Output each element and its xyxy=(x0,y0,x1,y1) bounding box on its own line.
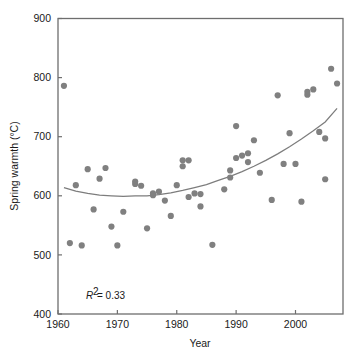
data-point xyxy=(73,182,79,188)
data-point xyxy=(186,157,192,163)
data-point xyxy=(120,209,126,215)
x-tick-label: 1960 xyxy=(46,318,70,330)
data-point xyxy=(233,123,239,129)
data-point xyxy=(281,161,287,167)
data-point xyxy=(180,157,186,163)
data-point xyxy=(322,135,328,141)
data-point xyxy=(91,206,97,212)
x-axis-title: Year xyxy=(189,337,211,349)
data-point xyxy=(310,86,316,92)
data-point xyxy=(180,163,186,169)
data-point xyxy=(221,186,227,192)
data-point xyxy=(328,66,334,72)
data-point xyxy=(114,242,120,248)
data-point xyxy=(96,176,102,182)
data-point xyxy=(209,242,215,248)
y-tick-label: 900 xyxy=(33,12,51,24)
data-point xyxy=(286,130,292,136)
y-axis-tick-labels: 400500600700800900 xyxy=(33,12,51,320)
x-tick-label: 2000 xyxy=(284,318,308,330)
data-point xyxy=(197,203,203,209)
scatter-plot: 400500600700800900 19601970198019902000 … xyxy=(0,0,355,358)
trend-curve xyxy=(64,108,337,196)
data-point xyxy=(67,240,73,246)
plot-frame xyxy=(58,19,343,315)
data-point xyxy=(150,192,156,198)
x-tick-label: 1970 xyxy=(106,318,130,330)
data-point xyxy=(197,191,203,197)
data-point xyxy=(144,225,150,231)
data-point xyxy=(245,159,251,165)
plot-border xyxy=(58,19,343,315)
data-point xyxy=(239,153,245,159)
r-squared-value: = 0.33 xyxy=(97,290,126,301)
data-point xyxy=(334,80,340,86)
r-squared-annotation: R 2 = 0.33 xyxy=(86,286,126,301)
data-points-group xyxy=(61,66,340,249)
data-point xyxy=(233,155,239,161)
data-point xyxy=(322,176,328,182)
data-point xyxy=(85,166,91,172)
y-tick-label: 700 xyxy=(33,130,51,142)
data-point xyxy=(269,197,275,203)
data-point xyxy=(132,181,138,187)
data-point xyxy=(304,89,310,95)
data-point xyxy=(191,190,197,196)
y-tick-label: 500 xyxy=(33,249,51,261)
data-point xyxy=(138,183,144,189)
data-point xyxy=(102,165,108,171)
data-point xyxy=(156,189,162,195)
data-point xyxy=(186,194,192,200)
y-tick-label: 800 xyxy=(33,71,51,83)
data-point xyxy=(227,167,233,173)
data-point xyxy=(257,170,263,176)
trend-line-group xyxy=(64,108,337,196)
data-point xyxy=(275,92,281,98)
data-point xyxy=(162,197,168,203)
y-axis-title: Spring warmth (°C) xyxy=(8,121,20,210)
data-point xyxy=(108,223,114,229)
x-axis-tick-labels: 19601970198019902000 xyxy=(46,318,307,330)
data-point xyxy=(227,174,233,180)
data-point xyxy=(251,137,257,143)
data-point xyxy=(298,199,304,205)
data-point xyxy=(79,242,85,248)
data-point xyxy=(168,213,174,219)
data-point xyxy=(292,161,298,167)
data-point xyxy=(61,83,67,89)
data-point xyxy=(174,182,180,188)
data-point xyxy=(316,129,322,135)
x-tick-label: 1980 xyxy=(165,318,189,330)
y-tick-label: 600 xyxy=(33,189,51,201)
figure-container: 400500600700800900 19601970198019902000 … xyxy=(0,0,355,358)
data-point xyxy=(245,150,251,156)
x-tick-label: 1990 xyxy=(224,318,248,330)
